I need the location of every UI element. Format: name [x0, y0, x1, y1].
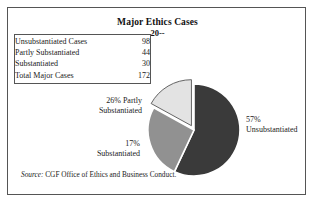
data-table-box: Unsubstantiated Cases 98 Partly Substant… [14, 34, 151, 84]
callout-unsubstantiated-line2: Unsubstantiated [246, 125, 312, 135]
row-label: Unsubstantiated Cases [15, 37, 131, 48]
row-value: 30 [131, 59, 150, 70]
pie-chart [140, 76, 248, 184]
row-label: Substantiated [15, 59, 131, 70]
row-value: 44 [131, 48, 150, 59]
callout-substantiated: 17% Substantiated [58, 139, 140, 159]
callout-partly-substantiated: 26% Partly Substantiated [56, 96, 142, 116]
source-label: Source: [21, 170, 43, 179]
table-row: Substantiated 30 [15, 59, 150, 70]
figure-container: Major Ethics Cases 20-- Unsubstantiated … [0, 0, 315, 204]
row-value: 98 [131, 37, 150, 48]
source-text: CGF Office of Ethics and Business Conduc… [45, 170, 176, 179]
table-row: Unsubstantiated Cases 98 [15, 37, 150, 48]
source-note: Source: CGF Office of Ethics and Busines… [21, 170, 176, 179]
callout-substantiated-line2: Substantiated [58, 149, 140, 159]
table-body: Unsubstantiated Cases 98 Partly Substant… [15, 37, 150, 81]
table-row: Partly Substantiated 44 [15, 48, 150, 59]
callout-substantiated-line1: 17% [58, 139, 140, 149]
page-title: Major Ethics Cases [8, 17, 307, 28]
callout-partly-line2: Substantiated [56, 106, 142, 116]
row-label: Partly Substantiated [15, 48, 131, 59]
callout-unsubstantiated: 57% Unsubstantiated [246, 115, 312, 135]
callout-partly-line1: 26% Partly [56, 96, 142, 106]
callout-unsubstantiated-line1: 57% [246, 115, 312, 125]
pie-chart-svg [140, 76, 248, 184]
ethics-cases-table: Unsubstantiated Cases 98 Partly Substant… [15, 37, 150, 81]
row-label: Total Major Cases [15, 70, 131, 81]
table-row-total: Total Major Cases 172 [15, 70, 150, 81]
